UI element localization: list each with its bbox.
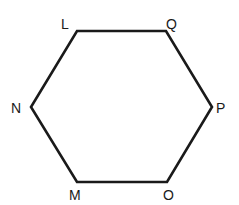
vertex-label-o: O (163, 187, 174, 203)
hexagon-shape (31, 31, 212, 182)
vertex-label-l: L (61, 16, 69, 32)
vertex-label-n: N (11, 100, 21, 116)
vertex-label-q: Q (166, 16, 177, 32)
hexagon-diagram: L Q P O M N (0, 0, 239, 205)
vertex-label-p: P (216, 100, 225, 116)
vertex-label-m: M (69, 187, 81, 203)
